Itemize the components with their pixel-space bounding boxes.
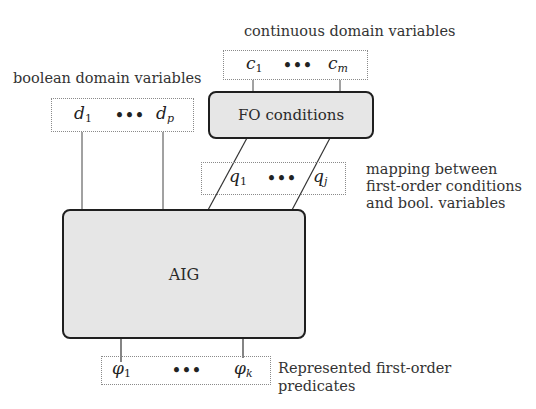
boolean-variables-label: boolean domain variables bbox=[13, 70, 202, 87]
variable-q-first: q1 bbox=[229, 166, 247, 188]
variable-q-last: qj bbox=[313, 166, 327, 188]
mapping-variables-box: q1 ••• qj bbox=[201, 162, 346, 195]
ellipsis: ••• bbox=[172, 362, 202, 378]
aig-label: AIG bbox=[169, 265, 200, 284]
ellipsis: ••• bbox=[115, 107, 145, 123]
predicates-box: φ1 ••• φk bbox=[101, 356, 271, 385]
variable-d-first: d1 bbox=[74, 103, 92, 125]
represented-line-2: predicates bbox=[278, 377, 451, 395]
variable-phi-first: φ1 bbox=[112, 358, 131, 380]
variable-c-first: c1 bbox=[246, 53, 263, 75]
fo-conditions-label: FO conditions bbox=[238, 106, 344, 124]
continuous-variables-label: continuous domain variables bbox=[244, 23, 455, 40]
variable-c-last: cm bbox=[328, 53, 348, 75]
fo-conditions-box: FO conditions bbox=[208, 91, 374, 139]
represented-description: Represented first-order predicates bbox=[278, 359, 451, 395]
continuous-variables-box: c1 ••• cm bbox=[223, 50, 368, 80]
mapping-line-3: and bool. variables bbox=[366, 195, 522, 212]
ellipsis: ••• bbox=[283, 57, 313, 73]
mapping-line-2: first-order conditions bbox=[366, 178, 522, 195]
boolean-variables-box: d1 ••• dp bbox=[51, 98, 194, 132]
variable-phi-last: φk bbox=[234, 358, 253, 380]
mapping-line-1: mapping between bbox=[366, 161, 522, 178]
ellipsis: ••• bbox=[267, 170, 297, 186]
represented-line-1: Represented first-order bbox=[278, 359, 451, 377]
aig-box: AIG bbox=[62, 209, 306, 339]
mapping-description: mapping between first-order conditions a… bbox=[366, 161, 522, 212]
variable-d-last: dp bbox=[156, 103, 174, 125]
